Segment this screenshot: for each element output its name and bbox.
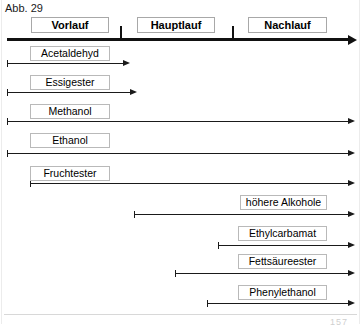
range-arrow-line	[7, 63, 123, 64]
compound-label-4: Ethanol	[30, 133, 110, 148]
page-folio: 157	[330, 317, 348, 327]
range-arrow-line	[30, 183, 348, 184]
compound-label-6: höhere Alkohole	[240, 195, 327, 210]
range-arrow-line	[207, 303, 348, 304]
range-arrowhead-icon	[348, 270, 355, 276]
range-arrowhead-icon	[348, 180, 355, 186]
figure-caption: Abb. 29	[5, 2, 43, 15]
phase-label-3: Nachlauf	[248, 17, 327, 33]
compound-label-9: Phenylethanol	[238, 285, 327, 300]
range-arrow-line	[7, 92, 130, 93]
compound-label-7: Ethylcarbamat	[238, 226, 327, 241]
axis-tick-2	[232, 26, 234, 38]
range-arrowhead-icon	[130, 89, 137, 95]
main-axis-line	[7, 38, 348, 41]
page-footer-rule	[4, 314, 357, 315]
range-arrowhead-icon	[348, 211, 355, 217]
range-arrow-line	[7, 121, 348, 122]
range-arrowhead-icon	[123, 60, 130, 66]
range-arrowhead-icon	[348, 118, 355, 124]
range-arrow-line	[218, 245, 348, 246]
compound-label-2: Essigester	[30, 75, 110, 90]
page-edge-rule-left	[1, 0, 2, 324]
phase-label-2: Hauptlauf	[137, 17, 215, 33]
compound-label-1: Acetaldehyd	[30, 46, 110, 61]
range-arrowhead-icon	[348, 242, 355, 248]
page-edge-rule-right	[359, 0, 360, 324]
range-arrow-line	[7, 153, 348, 154]
axis-tick-1	[120, 26, 122, 38]
range-arrow-line	[175, 273, 348, 274]
compound-label-8: Fettsäureester	[238, 254, 327, 269]
range-arrowhead-icon	[348, 150, 355, 156]
compound-label-3: Methanol	[30, 104, 110, 119]
range-arrow-line	[134, 214, 348, 215]
phase-label-1: Vorlauf	[31, 17, 109, 33]
range-arrowhead-icon	[348, 300, 355, 306]
main-axis-arrowhead-icon	[348, 35, 357, 45]
compound-label-5: Fruchtester	[30, 166, 110, 181]
